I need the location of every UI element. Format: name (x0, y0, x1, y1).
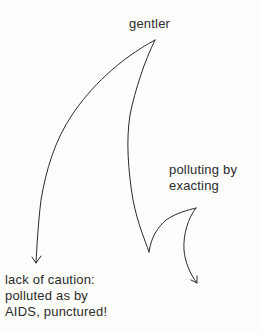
node-gentler: gentler (129, 16, 170, 32)
edge-cusp-to-peak (149, 208, 196, 252)
node-caution-line-3: AIDS, punctured! (5, 304, 107, 320)
node-polluting-line-2: exacting (169, 178, 237, 194)
node-gentler-label: gentler (129, 16, 170, 32)
node-polluting-line-1: polluting by (169, 162, 237, 178)
edge-peak-to-polluting (184, 208, 197, 283)
edge-gentler-to-cusp (128, 40, 155, 252)
node-polluting-by-exacting: polluting by exacting (169, 162, 237, 194)
edge-gentler-to-caution (36, 40, 155, 263)
node-caution-line-1: lack of caution: (5, 272, 107, 288)
node-caution-line-2: polluted as by (5, 288, 107, 304)
node-lack-of-caution: lack of caution: polluted as by AIDS, pu… (5, 272, 107, 320)
